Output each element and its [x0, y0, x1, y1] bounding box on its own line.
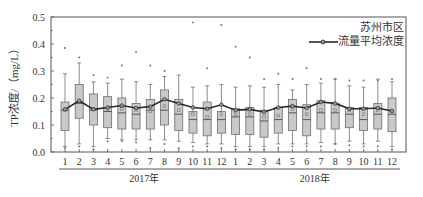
outlier-point: [348, 79, 350, 81]
x-tick-label: 11: [202, 156, 212, 167]
box-iqr: [118, 98, 126, 129]
x-tick-label: 12: [216, 156, 226, 167]
outlier-point: [306, 67, 308, 69]
x-tick-label: 8: [162, 156, 167, 167]
x-tick-label: 12: [387, 156, 397, 167]
flow-mean-marker: [376, 106, 380, 110]
flow-mean-marker: [106, 106, 110, 110]
box-iqr: [104, 97, 112, 128]
x-tick-label: 6: [134, 156, 139, 167]
flow-mean-marker: [134, 106, 138, 110]
box-iqr: [61, 102, 69, 130]
flow-mean-marker: [63, 108, 67, 112]
box-2018年-9: [345, 79, 353, 146]
flow-mean-marker: [305, 106, 309, 110]
x-tick-label: 4: [276, 156, 281, 167]
x-tick-label: 7: [148, 156, 153, 167]
outlier-point: [78, 57, 80, 59]
box-iqr: [388, 98, 396, 132]
outlier-point: [348, 144, 350, 146]
legend-series-label: 流量平均浓度: [338, 34, 404, 47]
group-label: 2018年: [300, 172, 330, 184]
box-2018年-5: [288, 78, 296, 148]
outlier-point: [192, 146, 194, 148]
box-iqr: [331, 103, 339, 129]
outlier-point: [149, 147, 151, 149]
box-iqr: [189, 112, 197, 134]
box-iqr: [217, 112, 225, 134]
y-axis-label: TP浓度/（mg/L）: [7, 43, 20, 127]
outlier-point: [320, 146, 322, 148]
outlier-point: [320, 78, 322, 80]
box-iqr: [146, 99, 154, 129]
outlier-point: [249, 57, 251, 59]
flow-mean-line: [65, 99, 392, 112]
x-tick-label: 5: [290, 156, 295, 167]
outlier-point: [178, 147, 180, 149]
outlier-point: [149, 65, 151, 67]
x-tick-label: 2: [247, 156, 252, 167]
outlier-point: [192, 21, 194, 23]
box-iqr: [317, 101, 325, 129]
flow-mean-marker: [390, 109, 394, 113]
y-tick-label: 0.3: [33, 66, 46, 77]
y-tick-label: 0.1: [33, 120, 46, 131]
box-2018年-7: [317, 78, 325, 148]
outlier-point: [363, 79, 365, 81]
x-axis: 1234567891011121234567891011122017年2018年: [59, 149, 400, 184]
x-tick-label: 3: [262, 156, 267, 167]
flow-mean-marker: [205, 107, 209, 111]
flow-mean-marker: [77, 99, 81, 103]
x-tick-label: 11: [373, 156, 383, 167]
box-2018年-10: [360, 79, 368, 147]
box-2017年-5: [118, 65, 126, 143]
y-tick-label: 0.0: [33, 147, 46, 158]
flow-mean-marker: [262, 110, 266, 114]
outlier-point: [263, 78, 265, 80]
box-2018年-4: [274, 73, 282, 149]
flow-mean-marker: [362, 107, 366, 111]
outlier-point: [306, 146, 308, 148]
flow-mean-marker: [220, 103, 224, 107]
outlier-point: [164, 143, 166, 145]
outlier-point: [291, 146, 293, 148]
outlier-point: [277, 147, 279, 149]
outlier-point: [64, 47, 66, 49]
outlier-point: [78, 146, 80, 148]
y-tick-label: 0.2: [33, 93, 46, 104]
x-tick-label: 1: [63, 156, 68, 167]
box-2018年-2: [246, 57, 254, 151]
flow-mean-marker: [291, 104, 295, 108]
x-tick-label: 9: [347, 156, 352, 167]
box-2017年-8: [161, 70, 169, 145]
outlier-point: [164, 70, 166, 72]
box-2018年-12: [388, 78, 396, 150]
outlier-point: [377, 146, 379, 148]
box-2018年-8: [331, 78, 339, 145]
x-tick-label: 3: [91, 156, 96, 167]
box-2018年-3: [260, 78, 268, 150]
box-2017年-10: [189, 21, 197, 147]
x-tick-label: 8: [333, 156, 338, 167]
x-tick-label: 10: [188, 156, 198, 167]
outlier-point: [107, 140, 109, 142]
outlier-point: [291, 78, 293, 80]
outlier-point: [334, 78, 336, 80]
box-2017年-9: [175, 75, 183, 149]
outlier-point: [235, 46, 237, 48]
box-iqr: [260, 110, 268, 137]
x-tick-label: 7: [318, 156, 323, 167]
outlier-point: [277, 73, 279, 75]
x-tick-label: 1: [233, 156, 238, 167]
outlier-point: [206, 146, 208, 148]
box-iqr: [246, 107, 254, 134]
x-tick-label: 2: [77, 156, 82, 167]
flow-mean-marker: [191, 106, 195, 110]
outlier-point: [377, 79, 379, 81]
legend-title: 苏州市区: [360, 20, 404, 33]
outlier-point: [92, 74, 94, 76]
x-tick-label: 6: [304, 156, 309, 167]
flow-mean-marker: [163, 98, 167, 102]
legend-marker-icon: [321, 40, 325, 44]
outlier-point: [107, 77, 109, 79]
